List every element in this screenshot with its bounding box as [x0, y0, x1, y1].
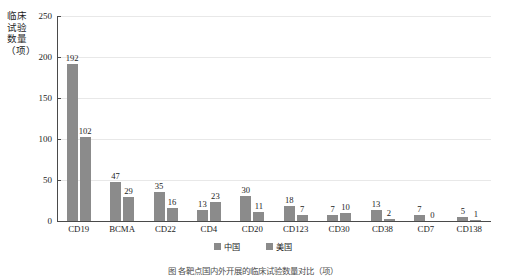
bar-value-CD20-中国: 30 [234, 185, 258, 195]
x-tick-label-CD123: CD123 [274, 224, 317, 234]
x-tick-label-CD138: CD138 [448, 224, 491, 234]
y-tick-label-50: 50 [22, 175, 52, 185]
legend-entry-美国[interactable]: 美国 [266, 240, 292, 252]
figure-caption: 图 各靶点国内外开展的临床试验数量对比（项） [0, 264, 506, 276]
bar-CD19-美国 [80, 137, 91, 221]
x-tick-label-CD22: CD22 [144, 224, 187, 234]
bar-value-CD30-美国: 10 [334, 202, 358, 212]
x-tick-label-CD7: CD7 [404, 224, 447, 234]
bar-value-CD4-美国: 23 [203, 191, 227, 201]
bar-CD30-美国 [340, 213, 351, 221]
bar-value-CD138-美国: 1 [464, 209, 488, 219]
y-tick-label-0: 0 [22, 216, 52, 226]
gridline-100 [57, 139, 491, 140]
bar-CD19-中国 [67, 64, 78, 221]
y-tick-mark-250 [57, 16, 61, 17]
x-tick-label-CD19: CD19 [57, 224, 100, 234]
gridline-250 [57, 16, 491, 17]
bar-value-CD20-美国: 11 [247, 201, 271, 211]
bar-CD4-中国 [197, 210, 208, 221]
gridline-150 [57, 98, 491, 99]
bar-value-CD7-美国: 0 [420, 210, 444, 220]
y-tick-label-100: 100 [22, 134, 52, 144]
bar-CD38-美国 [384, 219, 395, 221]
x-tick-label-CD4: CD4 [187, 224, 230, 234]
gridline-200 [57, 57, 491, 58]
legend-label: 美国 [276, 240, 292, 252]
bar-value-CD38-美国: 2 [377, 208, 401, 218]
bar-value-CD22-中国: 35 [147, 181, 171, 191]
bar-value-CD19-美国: 102 [73, 126, 97, 136]
chart-legend: 中国美国 [0, 240, 506, 252]
x-axis-line [57, 221, 491, 222]
y-tick-mark-150 [57, 98, 61, 99]
x-tick-label-CD30: CD30 [317, 224, 360, 234]
bar-value-CD19-中国: 192 [60, 53, 84, 63]
y-tick-mark-0 [57, 221, 61, 222]
x-tick-label-BCMA: BCMA [100, 224, 143, 234]
bar-CD30-中国 [327, 215, 338, 221]
bar-CD22-美国 [167, 208, 178, 221]
bar-value-CD123-美国: 7 [290, 204, 314, 214]
bar-value-BCMA-中国: 47 [104, 171, 128, 181]
bar-value-CD22-美国: 16 [160, 197, 184, 207]
legend-entry-中国[interactable]: 中国 [214, 240, 240, 252]
bar-CD123-美国 [297, 215, 308, 221]
x-tick-label-CD20: CD20 [231, 224, 274, 234]
y-tick-label-150: 150 [22, 93, 52, 103]
x-tick-label-CD38: CD38 [361, 224, 404, 234]
y-tick-mark-50 [57, 180, 61, 181]
y-tick-label-200: 200 [22, 52, 52, 62]
bar-CD138-美国 [470, 220, 481, 221]
bar-value-BCMA-美国: 29 [117, 186, 141, 196]
bar-CD20-美国 [253, 212, 264, 221]
y-tick-mark-100 [57, 139, 61, 140]
legend-swatch-icon [266, 243, 273, 250]
bar-BCMA-美国 [123, 197, 134, 221]
bar-CD4-美国 [210, 202, 221, 221]
legend-label: 中国 [224, 240, 240, 252]
y-axis-title: 临床试验数量（项） [6, 10, 28, 142]
y-tick-label-250: 250 [22, 11, 52, 21]
legend-swatch-icon [214, 243, 221, 250]
